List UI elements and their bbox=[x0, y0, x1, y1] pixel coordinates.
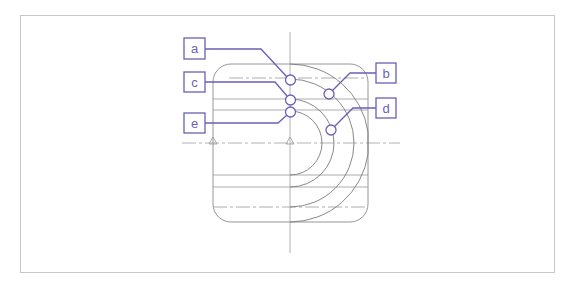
callout-e-label: e bbox=[191, 116, 198, 131]
callout-d-leader bbox=[334, 108, 376, 127]
callout-a-marker bbox=[286, 75, 296, 85]
callout-b-leader bbox=[332, 73, 376, 91]
callout-a-label: a bbox=[191, 41, 199, 56]
callout-e-leader bbox=[205, 115, 287, 123]
callout-d-marker bbox=[326, 125, 336, 135]
callout-e-marker bbox=[286, 107, 296, 117]
callout-b-label: b bbox=[382, 66, 389, 81]
callout-c[interactable] bbox=[184, 72, 296, 105]
callout-d-label: d bbox=[382, 101, 389, 116]
callout-a-leader bbox=[205, 49, 287, 77]
callout-b-marker bbox=[324, 89, 334, 99]
centerlines bbox=[182, 32, 400, 253]
callout-c-marker bbox=[286, 95, 296, 105]
callout-c-leader bbox=[205, 82, 287, 96]
technical-drawing: a b c d e bbox=[0, 0, 575, 288]
callout-e[interactable] bbox=[184, 107, 296, 133]
callout-c-label: c bbox=[191, 75, 198, 90]
